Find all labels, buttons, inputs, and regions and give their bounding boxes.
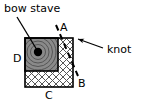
arrow-left-icon [78,39,103,48]
bow-stave-label: bow stave [4,3,60,14]
pith-dot-icon [34,48,42,56]
bow-stave-cross-section-diagram: bow stave knot A B C D [0,0,143,106]
knot-label: knot [107,44,131,55]
corner-label-c: C [45,90,53,101]
corner-label-d: D [13,53,21,64]
corner-label-b: B [78,78,86,89]
corner-label-a: A [60,22,68,33]
